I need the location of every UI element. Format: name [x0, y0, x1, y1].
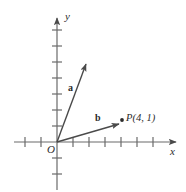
vector-diagram: x y O a b P(4, 1): [0, 0, 186, 192]
y-axis-label: y: [65, 11, 70, 22]
vector-b-label: b: [95, 113, 101, 123]
x-axis: [14, 137, 176, 147]
vector-b-arrow: [57, 124, 119, 142]
point-p-label: P(4, 1): [126, 113, 155, 124]
x-axis-label: x: [170, 146, 175, 157]
vector-a-label: a: [68, 83, 73, 93]
point-p-dot: [120, 118, 124, 122]
origin-label: O: [47, 144, 55, 155]
vector-a-arrow: [57, 64, 86, 142]
diagram-canvas: [0, 0, 186, 192]
y-axis: [52, 18, 62, 190]
